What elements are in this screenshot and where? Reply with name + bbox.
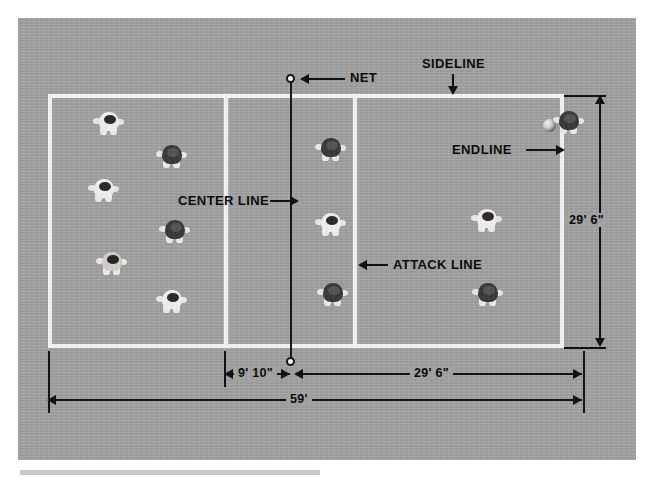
center-line-leader-line xyxy=(270,200,292,202)
dim-attack-zone-arrow-right-icon xyxy=(281,369,290,379)
dim-width-arrow-down-icon xyxy=(595,338,605,347)
player-figure xyxy=(155,285,189,315)
dim-width-arrow-up-icon xyxy=(595,95,605,104)
net-line xyxy=(290,78,292,362)
dim-full-court-rule xyxy=(50,399,582,401)
player-figure xyxy=(314,133,348,163)
dim-attack-zone-value: 9' 10" xyxy=(234,366,277,380)
attack-line-leader-line xyxy=(366,264,388,266)
caption-rule xyxy=(20,470,320,475)
volleyball-icon xyxy=(543,119,556,132)
net-post-bottom-icon xyxy=(286,357,295,366)
player-figure xyxy=(158,215,192,245)
dim-half-court-value: 29' 6" xyxy=(410,366,453,380)
label-attack-line: ATTACK LINE xyxy=(393,257,482,272)
player-figure xyxy=(92,107,126,137)
dim-tick-right-endline xyxy=(583,351,585,413)
player-figure xyxy=(87,174,121,204)
player-figure xyxy=(95,247,129,277)
net-leader-arrow-icon xyxy=(300,74,309,84)
dim-full-court-arrow-right-icon xyxy=(573,395,582,405)
label-sideline: SIDELINE xyxy=(422,56,485,71)
dim-half-court-arrow-left-icon xyxy=(294,369,303,379)
sideline-leader-arrow-icon xyxy=(448,86,458,95)
endline-leader-arrow-icon xyxy=(556,145,565,155)
attack-line-left xyxy=(224,94,228,348)
player-figure xyxy=(470,204,504,234)
net-post-top-icon xyxy=(286,74,295,83)
dim-width-bottom-extension xyxy=(564,347,606,349)
net-leader-line xyxy=(309,78,345,80)
attack-line-right xyxy=(353,94,357,348)
player-figure xyxy=(314,208,348,238)
label-net: NET xyxy=(350,70,377,85)
label-endline: ENDLINE xyxy=(452,142,512,157)
endline-leader-line xyxy=(526,149,558,151)
dim-attack-zone-arrow-left-icon xyxy=(224,369,233,379)
player-figure xyxy=(471,278,505,308)
court-photo: NET SIDELINE ENDLINE CENTER LINE ATTACK … xyxy=(18,18,636,460)
player-figure xyxy=(316,278,350,308)
dim-full-court-arrow-left-icon xyxy=(47,395,56,405)
center-line-leader-arrow-icon xyxy=(290,196,299,206)
dim-half-court-arrow-right-icon xyxy=(573,369,582,379)
attack-line-leader-arrow-icon xyxy=(358,260,367,270)
player-figure xyxy=(552,106,586,136)
player-figure xyxy=(155,140,189,170)
dim-full-court-value: 59' xyxy=(286,392,312,406)
label-center-line: CENTER LINE xyxy=(178,193,269,208)
dim-court-width-value: 29' 6" xyxy=(565,213,608,227)
